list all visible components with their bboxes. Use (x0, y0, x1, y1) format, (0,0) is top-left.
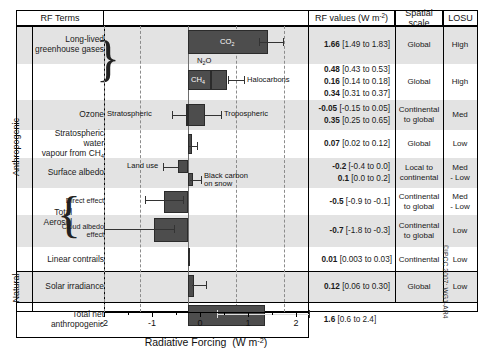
xticklabel--1: -1 (137, 318, 167, 328)
spatial-scale-text-3: Global (407, 139, 430, 149)
spatial-scale-text-2b: to global (399, 115, 439, 125)
bar-label-stratospheric: Stratospheric (107, 110, 152, 118)
spatial-scale-row-4: Local to continental (395, 158, 443, 188)
col-rule-plot (308, 26, 309, 312)
spatial-scale-row-7: Continental (395, 247, 443, 272)
gridline--2.4 (104, 26, 105, 312)
whisker-cap-swv-high (197, 142, 198, 150)
x-axis-title-units: (W m-2) (229, 336, 267, 348)
row-term-surface-albedo: Surface albedo (34, 158, 109, 188)
figure-root: RF Terms RF values (W m-2) Spatial scale… (0, 0, 483, 357)
xtick-minor--0.5 (176, 313, 177, 315)
xtick--1 (152, 313, 153, 317)
rf-value-bold-2a: -0.05 (319, 104, 338, 113)
row-term-strat-water-vapour: Stratospheric water vapour from CH4 (34, 130, 109, 158)
bar-ozone-tropospheric (188, 104, 205, 126)
losu-row-2: Med (443, 100, 477, 130)
rf-value-range-1c: [0.31 to 0.37] (342, 89, 390, 98)
spatial-scale-text-4a: Local to (400, 163, 439, 173)
row-term-linear-contrails: Linear contrails (34, 247, 109, 272)
rf-value-bold-2b: 0.35 (324, 116, 340, 125)
row-term-swv-line1: Stratospheric water (34, 129, 104, 149)
header-rf-values-label: RF values (W m-2) (315, 13, 388, 23)
spatial-scale-row-3: Global (395, 130, 443, 158)
col-rule-side (32, 26, 33, 312)
bar-label-halocarbons: Halocarbons (247, 76, 290, 84)
losu-text-5b: - Low (450, 202, 470, 212)
x-axis-title-main: Radiative Forcing (145, 336, 227, 348)
whisker-cap-strat-low (172, 111, 173, 119)
spatial-scale-row-0: Global (395, 32, 443, 58)
rf-value-range-3: [0.02 to 0.12] (342, 139, 390, 148)
rf-value-bold-1c: 0.34 (324, 89, 340, 98)
rf-value-row-1: 0.48 [0.43 to 0.53] 0.16 [0.14 to 0.18] … (310, 64, 390, 100)
whisker-cap-co2-high (283, 38, 284, 46)
xtick--2 (104, 313, 105, 317)
rf-value-bold-4b: 0.1 (338, 174, 349, 183)
losu-text-8: Low (453, 282, 468, 292)
xtick-minor--1.5 (128, 313, 129, 315)
spatial-scale-row-6: Continental to global (395, 215, 443, 247)
plot-area: CO2 N2O CH4 Halocarbons Stratospheric Tr… (104, 26, 308, 312)
group-label-anthropogenic: Anthropogenic (11, 107, 21, 187)
row-term-ghg-line2: greenhouse gases (35, 45, 104, 55)
rf-value-bold-1a: 0.48 (324, 65, 340, 74)
whisker-cap-halocarbons-low (228, 76, 229, 84)
row-subterm-cloud-albedo-line2: effect (62, 231, 104, 239)
losu-text-7: Low (453, 255, 468, 265)
rf-value-range-1b: [0.14 to 0.18] (342, 77, 390, 86)
bar-label-ch4: CH4 (191, 75, 205, 84)
bar-solar-irradiance (188, 275, 194, 297)
rf-value-range-5: [-0.9 to -0.1] (346, 197, 390, 206)
rf-value-bold-4a: -0.2 (332, 162, 346, 171)
spatial-scale-row-1: Global (395, 64, 443, 100)
rf-value-range-0: [1.49 to 1.83] (342, 40, 390, 49)
whisker-black-carbon (190, 180, 201, 181)
spatial-scale-text-4b: continental (400, 173, 439, 183)
bar-halocarbons (211, 70, 227, 90)
whisker-ozone-trop (205, 115, 221, 116)
losu-text-0: High (452, 40, 468, 50)
header-rf-terms: RF Terms (16, 10, 104, 26)
header-spatial-scale-label: Spatial scale (396, 8, 442, 28)
whisker-cap-cloud-low (104, 225, 105, 233)
rf-value-range-1a: [0.43 to 0.53] (342, 65, 390, 74)
whisker-cap-cloud-high (174, 225, 175, 233)
losu-text-2: Med (452, 110, 468, 120)
xtick-2 (296, 313, 297, 317)
whisker-solar (192, 285, 206, 286)
bar-label-black-carbon-line2: on snow (204, 180, 248, 188)
row-subterm-cloud-albedo-wrap: Cloud albedo effect (76, 215, 104, 247)
group-label-natural: Natural (11, 264, 21, 312)
row-term-solar-irradiance: Solar irradiance (34, 272, 109, 302)
header-losu-label: LOSU (448, 13, 473, 23)
whisker-cloud-albedo (104, 229, 174, 230)
rf-value-bold-9: 1.6 (324, 315, 335, 324)
whisker-cap-trop-high (221, 111, 222, 119)
rf-value-row-8: 0.12 [0.06 to 0.30] (310, 272, 390, 302)
bar-label-co2: CO2 (220, 37, 234, 46)
spatial-scale-text-6b: to global (399, 231, 439, 241)
losu-row-4: Med - Low (443, 158, 477, 188)
spatial-scale-text-5b: to global (399, 202, 439, 212)
whisker-halocarbons (228, 80, 244, 81)
row-subterm-direct-effect: Direct effect (66, 197, 104, 205)
rf-value-row-3: 0.07 [0.02 to 0.12] (310, 130, 390, 158)
bar-aerosol-direct-effect (164, 191, 188, 213)
spatial-scale-text-8: Global (407, 282, 430, 292)
header-rf-terms-label: RF Terms (41, 13, 80, 23)
rf-value-bold-6: -0.7 (329, 226, 343, 235)
rf-value-range-2a: [-0.15 to 0.05] (339, 104, 390, 113)
spatial-scale-row-5: Continental to global (395, 188, 443, 215)
rf-value-range-7: [0.003 to 0.03] (340, 255, 392, 264)
rf-value-range-2b: [0.25 to 0.65] (342, 116, 390, 125)
whisker-cap-co2-low (259, 38, 260, 46)
rf-value-bold-7: 0.01 (321, 255, 337, 264)
losu-row-3: Low (443, 130, 477, 158)
xticklabel-2: 2 (281, 318, 311, 328)
losu-row-0: High (443, 32, 477, 58)
spatial-scale-row-2: Continental to global (395, 100, 443, 130)
x-axis (104, 312, 308, 314)
whisker-cap-direct-low (145, 196, 146, 204)
whisker-cap-contrails (189, 253, 190, 261)
